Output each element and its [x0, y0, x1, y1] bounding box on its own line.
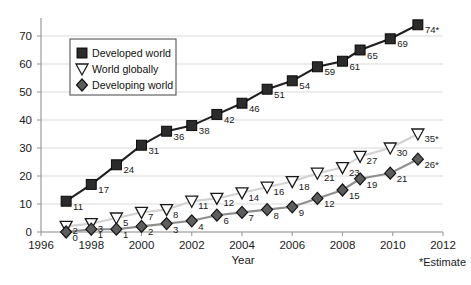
data-point-0-4 — [162, 126, 172, 136]
x-tick-2006: 2006 — [279, 239, 305, 251]
legend-label-0: Developed world — [92, 47, 171, 59]
data-point-2-10 — [312, 192, 323, 204]
point-label-2-8: 8 — [274, 210, 279, 221]
y-tick-20: 20 — [19, 170, 32, 182]
chart-container: 010203040506070 199619982000200220042006… — [0, 0, 471, 285]
data-point-0-6 — [212, 109, 222, 119]
estimate-footnote: *Estimate — [419, 256, 466, 268]
point-label-1-9: 18 — [299, 181, 310, 192]
data-point-2-14 — [412, 153, 423, 165]
point-label-0-8: 51 — [274, 89, 285, 100]
point-label-0-0: 11 — [73, 201, 83, 212]
point-label-2-9: 9 — [299, 207, 304, 218]
x-tick-2008: 2008 — [330, 239, 356, 251]
data-point-0-13 — [385, 34, 395, 44]
point-label-0-9: 54 — [299, 80, 310, 91]
line-chart: 010203040506070 199619982000200220042006… — [0, 0, 471, 285]
point-label-2-5: 4 — [198, 221, 204, 232]
point-label-1-3: 7 — [148, 211, 153, 222]
data-point-1-12 — [354, 151, 366, 162]
data-point-0-3 — [137, 140, 147, 150]
point-label-2-1: 1 — [98, 229, 103, 240]
data-point-0-9 — [287, 76, 297, 86]
data-point-0-12 — [355, 45, 365, 55]
data-point-2-5 — [186, 215, 197, 227]
y-tick-40: 40 — [19, 114, 32, 126]
point-label-0-14: 74* — [425, 24, 440, 35]
data-point-0-14 — [413, 20, 423, 30]
point-label-0-3: 31 — [149, 145, 160, 156]
x-tick-1998: 1998 — [78, 239, 104, 251]
legend-label-1: World globally — [92, 63, 159, 75]
point-label-2-7: 7 — [249, 212, 254, 223]
y-tick-50: 50 — [19, 86, 32, 98]
data-point-2-6 — [211, 209, 222, 221]
point-label-0-12: 65 — [367, 50, 378, 61]
y-tick-70: 70 — [19, 30, 32, 42]
point-label-1-2: 5 — [123, 217, 128, 228]
x-tick-2002: 2002 — [179, 239, 205, 251]
data-point-0-8 — [262, 84, 272, 94]
point-label-1-5: 11 — [198, 200, 208, 211]
point-label-2-10: 12 — [324, 198, 335, 209]
data-point-2-9 — [287, 201, 298, 213]
point-label-1-4: 8 — [173, 209, 178, 220]
data-point-0-5 — [187, 121, 197, 131]
x-tick-2010: 2010 — [380, 239, 406, 251]
point-label-0-10: 59 — [324, 66, 335, 77]
point-label-2-4: 3 — [173, 224, 178, 235]
data-point-2-7 — [237, 206, 248, 218]
point-label-0-7: 46 — [249, 103, 260, 114]
data-point-2-11 — [337, 184, 348, 196]
legend-label-2: Developing world — [92, 79, 173, 91]
point-label-2-13: 21 — [397, 173, 408, 184]
data-point-2-2 — [111, 223, 122, 235]
point-label-0-2: 24 — [123, 164, 134, 175]
data-point-2-8 — [262, 204, 273, 216]
x-tick-2012: 2012 — [430, 239, 456, 251]
x-tick-2004: 2004 — [229, 239, 255, 251]
data-point-0-7 — [237, 98, 247, 108]
legend-marker-0 — [77, 48, 87, 58]
point-label-1-12: 27 — [367, 155, 378, 166]
x-axis-tick-labels: 199619982000200220042006200820102012 — [28, 239, 456, 251]
point-label-0-11: 61 — [350, 61, 361, 72]
point-label-0-5: 38 — [199, 125, 210, 136]
x-tick-1996: 1996 — [28, 239, 54, 251]
point-label-1-11: 23 — [349, 167, 360, 178]
point-label-0-6: 42 — [224, 114, 235, 125]
point-label-1-14: 35* — [424, 133, 439, 144]
data-point-0-11 — [338, 56, 348, 66]
point-label-2-14: 26* — [424, 159, 439, 170]
x-axis-title: Year — [231, 254, 254, 266]
chart-legend: Developed worldWorld globallyDeveloping … — [70, 39, 176, 95]
y-axis-tick-labels: 010203040506070 — [19, 30, 32, 238]
point-label-2-2: 1 — [123, 229, 128, 240]
data-point-0-0 — [61, 196, 71, 206]
point-label-1-6: 12 — [223, 197, 234, 208]
point-label-1-10: 21 — [324, 172, 335, 183]
data-point-2-3 — [136, 220, 147, 232]
y-tick-60: 60 — [19, 58, 32, 70]
data-point-0-2 — [111, 160, 121, 170]
point-label-0-13: 69 — [397, 38, 408, 49]
y-tick-10: 10 — [19, 198, 32, 210]
point-label-0-1: 17 — [98, 184, 109, 195]
point-label-2-3: 2 — [148, 226, 153, 237]
x-tick-2000: 2000 — [129, 239, 155, 251]
data-point-1-14 — [412, 129, 424, 140]
data-point-0-10 — [312, 62, 322, 72]
point-label-1-8: 16 — [274, 186, 285, 197]
data-point-2-4 — [161, 218, 172, 230]
point-label-0-4: 36 — [174, 131, 185, 142]
data-point-2-0 — [61, 226, 72, 238]
data-point-2-13 — [385, 167, 396, 179]
data-point-0-1 — [86, 179, 96, 189]
point-label-1-7: 14 — [249, 192, 260, 203]
point-label-2-12: 19 — [367, 179, 378, 190]
y-tick-30: 30 — [19, 142, 32, 154]
point-label-2-11: 15 — [349, 190, 360, 201]
point-label-2-6: 6 — [223, 215, 228, 226]
point-label-1-13: 30 — [397, 147, 408, 158]
y-tick-0: 0 — [26, 226, 32, 238]
